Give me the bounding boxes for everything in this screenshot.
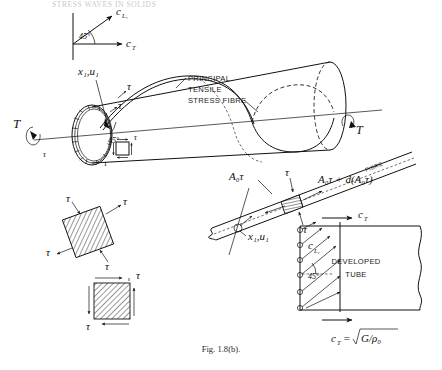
torque-left-arrowhead <box>30 131 37 140</box>
dt-title-line1: DEVELOPED <box>331 257 380 266</box>
principal-stress-element-group: τ τ τ τ <box>46 192 128 272</box>
dt-cL1-sub: L₁ <box>313 247 320 254</box>
pse-tau-bottom: τ <box>105 260 110 272</box>
pse-tau-top: τ <box>66 192 71 204</box>
helix-back-1 <box>252 85 334 122</box>
figure-page: STRESS WAVES IN SOLIDS 45° c L₁ c T <box>0 0 442 370</box>
figure-caption: Fig. 1.8(b). <box>202 344 241 354</box>
fibre-tau-top: τ <box>285 166 290 178</box>
fibre-x1u1-label: x₁,u₁ <box>247 230 269 242</box>
fibre-bar-break-left <box>209 228 216 240</box>
pse-tau-left: τ <box>46 246 51 258</box>
pse-arrow-top <box>72 202 80 214</box>
x1u1-leader <box>96 80 108 126</box>
formula-cT-sub: T <box>337 339 341 346</box>
tau-helix-upper: τ <box>127 80 132 92</box>
fibre-bar-bottom-edge <box>216 164 416 240</box>
running-head: STRESS WAVES IN SOLIDS <box>52 0 156 9</box>
tube-element-tau-left: τ <box>104 159 108 168</box>
helix-angle-label: 45° <box>108 136 120 145</box>
formula-radicand: G/ρ₀ <box>361 332 381 344</box>
fibre-caption-line2: TENSILE <box>188 85 222 94</box>
dt-title-line2: TUBE <box>345 270 366 279</box>
pse-tau-right: τ <box>123 195 128 207</box>
fibre-force-right: A₀τ + d(A₀τ) <box>317 173 373 186</box>
dt-cT-sub: T <box>364 215 368 222</box>
fibre-origin-arrow <box>240 216 252 226</box>
fibre-force-left: A₀τ <box>228 170 245 182</box>
torque-right-label: T <box>356 123 364 137</box>
fibre-section-plane <box>229 188 249 255</box>
formula-equals: = <box>343 332 350 344</box>
tube-right-rim-front <box>330 62 346 150</box>
tube-right-rim-back <box>314 62 330 150</box>
axis-cL1-label: c <box>116 5 121 17</box>
axes-angle-label: 45° <box>79 32 91 41</box>
fibre-caption-line1: PRINCIPAL <box>188 74 230 83</box>
formula-cT: c <box>331 332 336 344</box>
dt-right-torn-edge <box>418 226 421 310</box>
developed-tube-group: 45° c L₁ c T DEVELOPED TUBE c T = G/ρ₀ <box>297 208 421 346</box>
pse-arrow-left <box>57 248 72 254</box>
fibre-tau-bottom: τ <box>303 223 308 235</box>
axis-cT-sub: T <box>132 44 136 51</box>
tau-helix-upper-arrow <box>118 91 126 98</box>
tau-left-ring: τ <box>43 150 47 159</box>
torsion-tube-group: 45° x₁,u₁ τ τ T τ T PRINCIPAL TENSILE ST… <box>13 62 382 168</box>
fibre-tau-top-arrow <box>290 178 293 192</box>
fibre-x1u1-leader <box>240 231 246 236</box>
torque-right-arrowhead <box>349 121 356 128</box>
fibre-caption-line3: STRESS FIBRE <box>188 96 246 105</box>
axis-cL1-sub: L₁ <box>121 12 128 19</box>
pse-arrow-right <box>106 205 121 214</box>
shear-stress-element-group: τ τ <box>86 269 141 332</box>
sse-tau-right: τ <box>136 269 141 281</box>
wave-speed-axes-group: 45° c L₁ c T <box>73 5 136 60</box>
tube-axis-line <box>34 110 382 140</box>
x1u1-label: x₁,u₁ <box>77 65 99 77</box>
sse-tau-bottom: τ <box>86 320 91 332</box>
torque-left-label: T <box>13 116 21 131</box>
dt-cT-label: c <box>358 208 363 220</box>
helix-front-2 <box>252 118 334 152</box>
axis-cT-label: c <box>126 37 131 49</box>
fibre-force-left-leader <box>258 180 272 194</box>
dt-cL1-label: c <box>308 239 313 251</box>
tube-element-tau-right: τ <box>134 133 138 142</box>
figure-canvas: STRESS WAVES IN SOLIDS 45° c L₁ c T <box>0 0 442 370</box>
dt-angle-label: 45° <box>308 272 320 281</box>
fibre-label: FIBRE <box>364 161 383 173</box>
